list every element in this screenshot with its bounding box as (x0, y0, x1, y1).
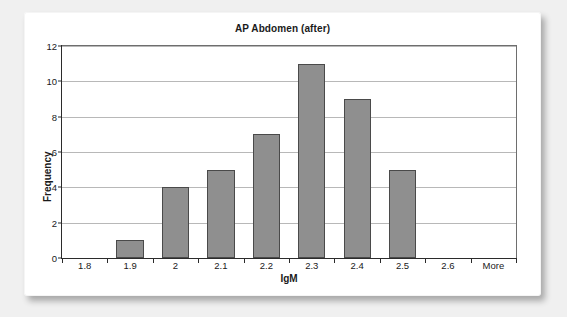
bar (207, 170, 234, 258)
y-tick-label: 4 (52, 182, 57, 193)
y-tick-label: 0 (52, 253, 57, 264)
bar (162, 187, 189, 258)
x-tick-label: 2.1 (198, 260, 243, 271)
bar-slot (107, 46, 152, 258)
x-tick-label: 2.6 (425, 260, 470, 271)
y-tick-label: 6 (52, 147, 57, 158)
bar-slot (244, 46, 289, 258)
bar-slot (198, 46, 243, 258)
x-tick-label: 2.4 (334, 260, 379, 271)
bar-slot (334, 46, 379, 258)
bar-series (62, 46, 516, 258)
x-tick-label: 2.2 (244, 260, 289, 271)
x-tick-label: 2 (153, 260, 198, 271)
bar-slot (289, 46, 334, 258)
bar-slot (62, 46, 107, 258)
y-tick-label: 2 (52, 217, 57, 228)
scanned-page-background: AP Abdomen (after) Frequency 024681012 1… (0, 0, 567, 317)
chart-card: AP Abdomen (after) Frequency 024681012 1… (24, 12, 541, 296)
bar-slot (425, 46, 470, 258)
bar-slot (380, 46, 425, 258)
bar-slot (153, 46, 198, 258)
bar (344, 99, 371, 258)
chart-title: AP Abdomen (after) (24, 23, 541, 34)
bar (116, 240, 143, 258)
x-tick-mark (516, 258, 517, 263)
y-tick-label: 8 (52, 111, 57, 122)
x-tick-label: 2.3 (289, 260, 334, 271)
x-axis-title: IgM (62, 273, 516, 284)
x-tick-label: 2.5 (380, 260, 425, 271)
y-tick-label: 10 (46, 76, 57, 87)
y-tick-label: 12 (46, 41, 57, 52)
bar-slot (471, 46, 516, 258)
x-axis-tick-labels: 1.81.922.12.22.32.42.52.6More (62, 260, 516, 271)
x-tick-label: More (471, 260, 516, 271)
bar (298, 64, 325, 258)
x-tick-label: 1.9 (107, 260, 152, 271)
plot-area: 024681012 (62, 45, 517, 258)
x-tick-label: 1.8 (62, 260, 107, 271)
bar (389, 170, 416, 258)
bar (253, 134, 280, 258)
